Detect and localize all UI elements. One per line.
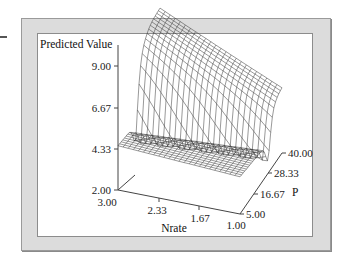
z-tick-label: 6.67 [92, 102, 112, 114]
x-tick-label: 3.00 [97, 196, 117, 208]
y-tick-label: 5.00 [246, 208, 266, 220]
z-tick-label: 4.33 [92, 143, 112, 155]
z-tick-label: 2.00 [92, 184, 112, 196]
z-tick-label: 9.00 [92, 60, 112, 72]
z-axis-ticks: 9.00 6.67 4.33 2.00 [92, 60, 118, 196]
x-tick-label: 1.00 [226, 219, 246, 231]
y-tick-label: 28.33 [274, 167, 299, 179]
surface-plot: Predicted Value 9.00 6.67 4.33 2.00 3.00… [0, 0, 346, 263]
surface-mesh [118, 8, 282, 177]
x-tick-label: 2.33 [147, 204, 167, 216]
y-tick-label: 16.67 [260, 188, 285, 200]
z-axis-title: Predicted Value [40, 38, 112, 50]
back-axis-line [118, 175, 135, 190]
x-axis-line [118, 190, 240, 214]
x-axis-title: Nrate [161, 222, 187, 234]
y-axis-title: P [292, 186, 298, 198]
y-tick-label: 40.00 [288, 147, 313, 159]
x-tick-label: 1.67 [190, 212, 210, 224]
